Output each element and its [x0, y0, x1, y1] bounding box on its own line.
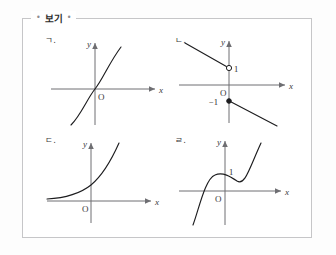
graph-item-a-x-label: x — [158, 85, 163, 95]
graph-item-d-x-label: x — [284, 187, 289, 197]
graph-item-b-origin-label: O — [220, 88, 227, 98]
graph-item-c-y-label: y — [82, 139, 87, 149]
graph-item-c-x-label: x — [154, 197, 159, 207]
cut-off-text-fragment: ​ — [76, 0, 200, 9]
graph-item-c-plot: x y O — [43, 129, 173, 229]
graph-item-d-plot: 1 x y O — [173, 129, 308, 229]
graph-item-b-value-1: 1 — [234, 64, 238, 74]
graph-item-d: ㄹ. 1 x y O — [173, 129, 308, 229]
bogi-example-box: • 보기 • ㄱ. x y O ㄴ. — [22, 18, 312, 238]
graph-item-b-value-neg1: −1 — [209, 97, 218, 107]
graph-item-d-value-1: 1 — [229, 167, 233, 177]
page-canvas: ​ • 보기 • ㄱ. x y O — [0, 0, 336, 255]
graph-item-a-origin-label: O — [98, 92, 105, 102]
graph-item-b-x-label: x — [288, 81, 293, 91]
graph-item-b-plot: 1 −1 x y O — [173, 29, 308, 129]
graph-item-a-y-label: y — [86, 39, 91, 49]
graph-item-b-y-label: y — [220, 37, 225, 47]
graph-item-c: ㄷ. x y O — [43, 129, 173, 229]
graph-item-b: ㄴ. 1 −1 x y O — [173, 29, 308, 129]
graph-item-a: ㄱ. x y O — [43, 29, 173, 129]
graph-item-d-origin-label: O — [215, 194, 222, 204]
graph-item-a-plot: x y O — [43, 29, 173, 129]
graph-item-d-y-label: y — [216, 137, 221, 147]
graph-grid: ㄱ. x y O ㄴ. — [23, 19, 311, 237]
graph-item-c-origin-label: O — [82, 204, 89, 214]
